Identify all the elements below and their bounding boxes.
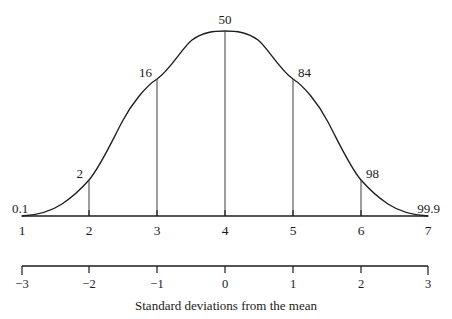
z-tick-label-1: 1: [290, 277, 296, 291]
distribution-chart-svg: 0.1 2 16 50 84 98 99.9 1 2 3 4 5 6 7: [0, 0, 452, 319]
z-tick-label--3: −3: [15, 277, 28, 291]
stanine-tick-label-3: 3: [154, 223, 161, 238]
stanine-tick-label-2: 2: [86, 223, 93, 238]
percentile-label-84: 84: [298, 65, 312, 80]
z-tick-label--2: −2: [82, 277, 95, 291]
percentile-label-99-9: 99.9: [417, 201, 440, 216]
stanine-tick-label-7: 7: [425, 223, 432, 238]
stanine-tick-label-5: 5: [290, 223, 297, 238]
stanine-tick-label-1: 1: [19, 223, 26, 238]
percentile-label-0-1: 0.1: [12, 201, 28, 216]
stanine-tick-label-6: 6: [358, 223, 365, 238]
stanine-tick-label-4: 4: [222, 223, 229, 238]
z-tick-label--1: −1: [150, 277, 163, 291]
z-tick-label-0: 0: [222, 277, 228, 291]
percentile-label-16: 16: [139, 65, 153, 80]
percentile-label-50: 50: [219, 12, 232, 27]
percentile-label-98: 98: [366, 166, 379, 181]
normal-distribution-figure: 0.1 2 16 50 84 98 99.9 1 2 3 4 5 6 7: [0, 0, 452, 319]
percentile-label-2: 2: [77, 166, 84, 181]
z-tick-label-2: 2: [358, 277, 364, 291]
z-tick-label-3: 3: [425, 277, 431, 291]
x-axis-caption: Standard deviations from the mean: [135, 298, 317, 313]
